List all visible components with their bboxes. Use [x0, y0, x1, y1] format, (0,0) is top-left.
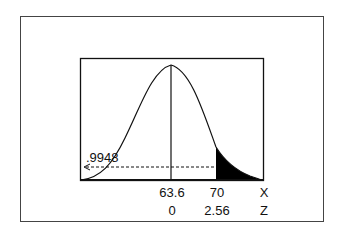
- probability-label: .9948: [86, 150, 119, 165]
- shaded-tail: [216, 147, 263, 180]
- z-label-mean: 0: [168, 203, 175, 218]
- z-label-cutoff: 2.56: [204, 203, 229, 218]
- x-label-cutoff: 70: [210, 185, 224, 200]
- z-axis-name: Z: [260, 203, 268, 218]
- x-axis-name: X: [260, 185, 269, 200]
- x-label-mean: 63.6: [159, 185, 184, 200]
- normal-distribution-figure: .9948 63.6 70 X 0 2.56 Z: [0, 0, 342, 234]
